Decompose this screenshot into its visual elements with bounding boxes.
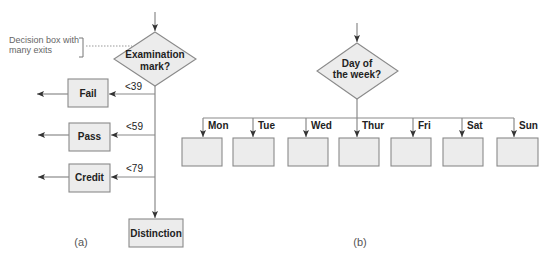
outcome-label: Pass xyxy=(78,131,102,142)
branch-box xyxy=(288,138,328,166)
flowchart-figure: Decision box with many exits Examination… xyxy=(0,0,546,261)
branch-wed: Wed xyxy=(288,118,332,166)
outcome-fail: <39 Fail xyxy=(37,79,155,107)
diagram-a: Decision box with many exits Examination… xyxy=(9,12,196,248)
decision-line-2: the week? xyxy=(333,69,381,80)
decision-line-2: mark? xyxy=(140,61,170,72)
branch-sun: Sun xyxy=(497,118,538,166)
branch-box xyxy=(233,138,274,166)
branch-box xyxy=(497,138,538,166)
annotation-line-1: Decision box with xyxy=(9,35,79,45)
caption-a: (a) xyxy=(74,236,87,248)
outcome-credit: <79 Credit xyxy=(38,163,155,192)
outcome-distinction: Distinction xyxy=(129,219,183,247)
outcome-label: Credit xyxy=(75,172,105,183)
branch-label: Thur xyxy=(362,120,384,131)
decision-examination-mark: Examination mark? xyxy=(114,32,196,86)
outcome-label: Fail xyxy=(79,88,96,99)
annotation: Decision box with many exits xyxy=(9,35,132,57)
outcome-pass: <59 Pass xyxy=(38,121,155,151)
branch-box xyxy=(182,138,222,166)
branch-fri: Fri xyxy=(391,118,431,166)
branch-sat: Sat xyxy=(443,118,483,166)
outcome-label: Distinction xyxy=(130,228,182,239)
branch-label: Sat xyxy=(467,120,483,131)
branch-box xyxy=(339,138,379,166)
condition-label: <59 xyxy=(126,121,143,132)
caption-b: (b) xyxy=(353,236,366,248)
decision-line-1: Examination xyxy=(125,49,184,60)
branch-box xyxy=(391,138,431,166)
annotation-line-2: many exits xyxy=(9,45,53,55)
branch-label: Wed xyxy=(311,120,332,131)
diagram-b: Day of the week? Mon Tue Wed Thur xyxy=(182,23,538,248)
branch-tue: Tue xyxy=(233,118,275,166)
annotation-bracket xyxy=(79,38,83,57)
branch-label: Tue xyxy=(258,120,275,131)
decision-day-of-week: Day of the week? xyxy=(317,43,398,99)
branch-label: Sun xyxy=(519,120,538,131)
condition-label: <79 xyxy=(126,163,143,174)
condition-label: <39 xyxy=(125,81,142,92)
branch-box xyxy=(443,138,483,166)
decision-line-1: Day of xyxy=(342,58,373,69)
branch-thur: Thur xyxy=(339,118,384,166)
branch-label: Fri xyxy=(418,120,431,131)
branch-mon: Mon xyxy=(182,118,229,166)
branch-label: Mon xyxy=(208,120,229,131)
